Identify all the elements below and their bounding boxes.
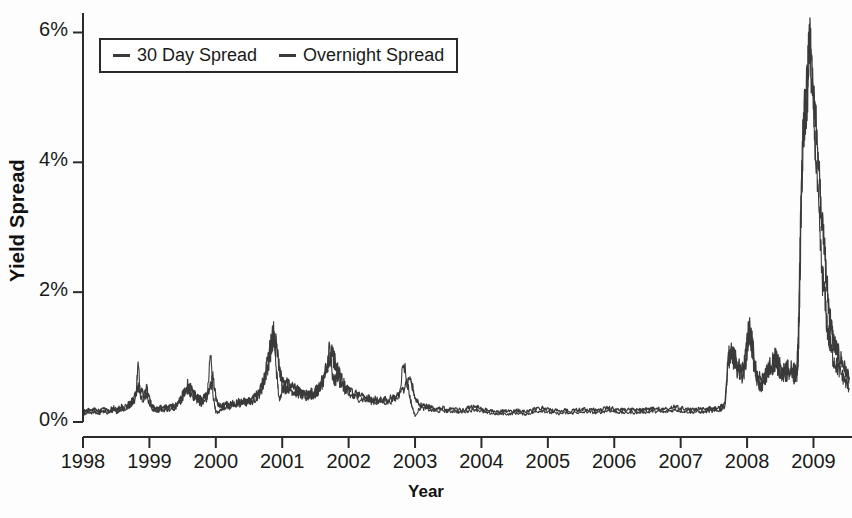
x-axis-title: Year <box>0 482 852 502</box>
legend-label: 30 Day Spread <box>137 45 257 66</box>
y-axis-title-text: Yield Spread <box>6 159 29 282</box>
y-tick-label: 2% <box>39 278 68 301</box>
x-tick-label: 2004 <box>459 450 504 473</box>
x-tick-label: 1999 <box>127 450 172 473</box>
y-axis-title: Yield Spread <box>0 0 34 440</box>
x-axis-ticks <box>83 437 813 448</box>
x-tick-label: 2000 <box>194 450 239 473</box>
y-tick-label: 0% <box>39 408 68 431</box>
x-tick-label: 2007 <box>658 450 703 473</box>
legend-entry-1: Overnight Spread <box>279 45 444 66</box>
x-tick-label: 2001 <box>260 450 305 473</box>
chart-legend: 30 Day SpreadOvernight Spread <box>99 38 458 73</box>
axis-layer <box>73 13 852 448</box>
y-tick-label: 6% <box>39 18 68 41</box>
x-tick-label: 2005 <box>526 450 571 473</box>
legend-line-icon <box>113 54 130 57</box>
legend-entry-0: 30 Day Spread <box>113 45 257 66</box>
y-tick-label: 4% <box>39 148 68 171</box>
series-layer <box>83 18 849 417</box>
x-tick-label: 2003 <box>393 450 438 473</box>
legend-label: Overnight Spread <box>303 45 444 66</box>
y-axis-ticks <box>73 32 83 422</box>
x-tick-label: 2008 <box>725 450 770 473</box>
x-tick-label: 2002 <box>326 450 371 473</box>
x-tick-label: 2009 <box>791 450 836 473</box>
x-tick-label: 1998 <box>61 450 106 473</box>
series-line-1 <box>83 29 849 416</box>
x-tick-label: 2006 <box>592 450 637 473</box>
plot-canvas <box>0 0 852 518</box>
chart-figure: Yield Spread Year 0%2%4%6% 1998199920002… <box>0 0 852 518</box>
legend-line-icon <box>279 54 296 57</box>
